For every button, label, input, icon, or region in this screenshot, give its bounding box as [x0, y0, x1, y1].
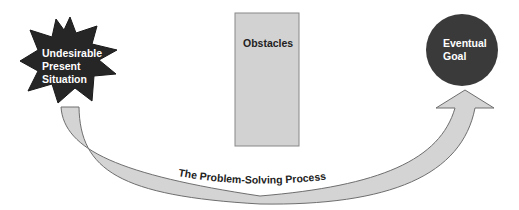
goal-label: Eventual Goal: [443, 37, 487, 63]
obstacle-label: Obstacles: [243, 37, 293, 50]
start-label-line-2: Present: [42, 60, 102, 73]
goal-label-line-1: Eventual: [443, 37, 487, 50]
process-label: The Problem-Solving Process: [178, 166, 327, 185]
problem-solving-diagram: The Problem-Solving Process: [0, 0, 519, 210]
start-label-line-3: Situation: [42, 73, 102, 86]
start-label: Undesirable Present Situation: [42, 47, 102, 86]
obstacle-label-text: Obstacles: [243, 37, 293, 50]
goal-label-line-2: Goal: [443, 50, 487, 63]
obstacle-box: [235, 13, 299, 146]
start-label-line-1: Undesirable: [42, 47, 102, 60]
